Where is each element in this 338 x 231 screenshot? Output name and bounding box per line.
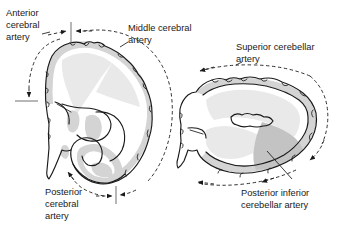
pca-label-line-2: cerebral <box>45 199 79 209</box>
aca-label-line-1: Anterior <box>6 8 39 18</box>
basal-ganglia-blob-b <box>85 115 102 141</box>
aca-label-line-2: cerebral <box>6 20 40 30</box>
diagram-canvas: Anterior cerebral artery Middle cerebral… <box>0 0 338 231</box>
mca-label-line-1: Middle cerebral <box>128 23 192 33</box>
pca-label-line-1: Posterior <box>45 187 82 197</box>
pica-label-line-1: Posterior inferior <box>241 188 309 198</box>
pica-label-line-2: cerebellar artery <box>241 200 309 210</box>
mca-label-line-2: artery <box>128 35 152 45</box>
pca-label-line-3: artery <box>45 211 69 221</box>
sca-label-line-2: artery <box>236 54 260 64</box>
arterial-territory-diagram: Anterior cerebral artery Middle cerebral… <box>0 0 338 231</box>
sca-label-line-1: Superior cerebellar <box>236 42 315 52</box>
aca-label-line-3: artery <box>6 32 30 42</box>
